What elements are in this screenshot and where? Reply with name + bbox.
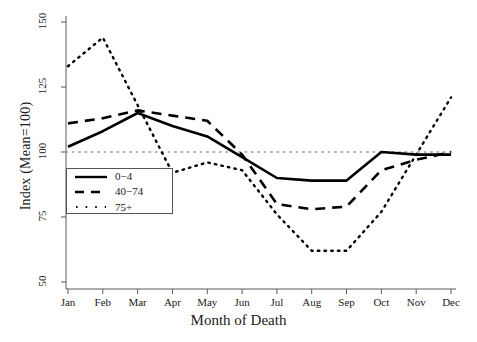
y-axis-title: Index (Mean=100) [18, 46, 34, 266]
y-tick-75: 75 [36, 201, 48, 231]
legend: 0−4 40−74 75+ [66, 168, 173, 214]
axis-lines [61, 16, 456, 294]
y-tick-100: 100 [36, 136, 48, 166]
x-axis-title: Month of Death [0, 312, 477, 329]
chart-figure: Index (Mean=100) Month of Death 50751001… [0, 0, 477, 342]
legend-key-solid-icon [74, 171, 108, 183]
legend-label-75-plus: 75+ [115, 202, 132, 213]
y-tick-125: 125 [36, 71, 48, 101]
y-tick-50: 50 [36, 266, 48, 296]
x-tick-dec: Dec [431, 296, 471, 308]
legend-label-0-4: 0−4 [115, 171, 132, 182]
data-series-layer [68, 38, 451, 251]
legend-key-dotted-icon [74, 201, 108, 213]
legend-item-0-4: 0−4 [67, 169, 172, 184]
legend-item-75-plus: 75+ [67, 200, 172, 215]
legend-item-40-74: 40−74 [67, 184, 172, 199]
series-line-2 [68, 38, 451, 251]
legend-key-dashed-icon [74, 186, 108, 198]
legend-label-40-74: 40−74 [115, 186, 143, 197]
y-tick-150: 150 [36, 6, 48, 36]
